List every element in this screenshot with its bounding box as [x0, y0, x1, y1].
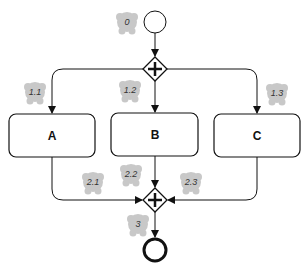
task-b[interactable]: B [111, 113, 198, 156]
token-2-2: 2.2 [120, 164, 142, 187]
split-gateway[interactable] [143, 57, 167, 81]
svg-text:2.1: 2.1 [86, 177, 100, 187]
token-2-3: 2.3 [180, 172, 202, 195]
token-2-1: 2.1 [82, 172, 104, 195]
start-event[interactable] [144, 11, 166, 33]
task-a-label: A [48, 129, 57, 143]
task-c-label: C [253, 129, 262, 143]
token-1-2: 1.2 [119, 80, 141, 103]
task-b-label: B [151, 128, 160, 142]
token-0: 0 [116, 12, 138, 35]
svg-text:2.3: 2.3 [184, 177, 198, 187]
svg-text:1.3: 1.3 [271, 88, 284, 98]
task-c[interactable]: C [214, 114, 300, 157]
svg-text:0: 0 [124, 17, 129, 27]
flow-split-to-c [167, 69, 257, 113]
join-gateway[interactable] [143, 188, 167, 212]
svg-text:2.2: 2.2 [124, 169, 138, 179]
token-1-3: 1.3 [266, 83, 288, 106]
svg-text:3: 3 [135, 219, 140, 229]
token-1-1: 1.1 [24, 82, 46, 105]
process-diagram: A B C 0 1.1 1.2 1.3 2.1 [0, 0, 307, 274]
token-3: 3 [127, 214, 149, 237]
task-a[interactable]: A [9, 114, 95, 157]
svg-text:1.1: 1.1 [29, 87, 42, 97]
svg-text:1.2: 1.2 [124, 85, 137, 95]
end-event[interactable] [144, 239, 166, 261]
